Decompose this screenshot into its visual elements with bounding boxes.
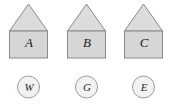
token-label-w: W <box>0 81 58 93</box>
house-shape-a[interactable]: A <box>0 0 58 62</box>
token-circle-w[interactable]: W <box>0 73 58 103</box>
token-label-g: G <box>58 81 116 93</box>
diagram-canvas: A B C W G E <box>0 0 173 107</box>
house-label-b: B <box>58 36 116 50</box>
token-circle-e[interactable]: E <box>115 73 173 103</box>
house-label-a: A <box>0 36 58 50</box>
house-shape-c[interactable]: C <box>115 0 173 62</box>
token-circle-g[interactable]: G <box>58 73 116 103</box>
house-outline-icon <box>0 0 58 62</box>
house-outline-icon <box>115 0 173 62</box>
token-label-e: E <box>115 81 173 93</box>
house-shape-b[interactable]: B <box>58 0 116 62</box>
house-label-c: C <box>115 36 173 50</box>
house-outline-icon <box>58 0 116 62</box>
